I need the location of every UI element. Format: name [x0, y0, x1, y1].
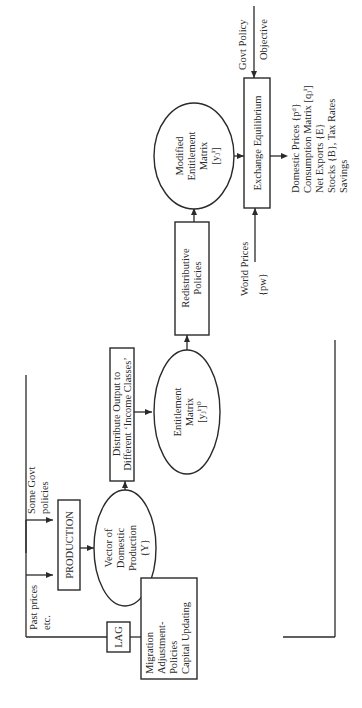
arrow-up-icon [252, 208, 258, 215]
arrow-right-icon [281, 153, 288, 159]
exchange-label: Exchange Equilibrium [252, 96, 263, 191]
svg-text:Consumption Matrix [qⱼⁱ]: Consumption Matrix [qⱼⁱ] [302, 85, 313, 193]
past-prices-label: Past prices etc. [28, 585, 52, 630]
govt-policy-label: Govt Policy Objective [237, 19, 269, 70]
svg-text:Modified: Modified [174, 136, 185, 176]
svg-text:etc.: etc. [41, 615, 52, 630]
flow-diagram: Past prices etc. Some Govt policies PROD… [0, 0, 362, 708]
some-govt-label: Some Govt policies [26, 466, 50, 514]
svg-text:Domestic Prices {pᵈ}: Domestic Prices {pᵈ} [290, 103, 301, 193]
svg-text:Policies: Policies [168, 641, 179, 674]
svg-text:Policies: Policies [192, 261, 203, 294]
production-label: PRODUCTION [64, 511, 75, 579]
svg-text:World Prices: World Prices [239, 242, 250, 296]
svg-text:Past prices: Past prices [28, 585, 39, 630]
svg-text:Vector of: Vector of [103, 528, 114, 567]
svg-text:[yⱼⁱ]: [yⱼⁱ] [210, 147, 221, 164]
lag-label: LAG [113, 626, 124, 648]
svg-text:Production: Production [127, 524, 138, 571]
svg-text:Savings: Savings [338, 160, 349, 193]
svg-text:Distribute Output to: Distribute Output to [111, 372, 122, 457]
distribute-label: Distribute Output to Different ‘Income C… [111, 357, 133, 471]
svg-text:Matrix: Matrix [198, 141, 209, 170]
arrow-up-icon [184, 335, 190, 342]
svg-text:Govt Policy: Govt Policy [237, 19, 248, 70]
svg-text:Entitlement: Entitlement [172, 387, 183, 436]
svg-text:Migration: Migration [144, 631, 155, 674]
svg-text:Adjustment-: Adjustment- [156, 621, 167, 674]
svg-text:{pw}: {pw} [257, 273, 268, 296]
arrow-right-icon [46, 517, 53, 523]
svg-text:policies: policies [39, 481, 50, 514]
svg-text:Entitlement: Entitlement [186, 131, 197, 180]
svg-text:Stocks {B}, Tax Rates: Stocks {B}, Tax Rates [326, 99, 337, 193]
world-prices-label: World Prices {pw} [239, 242, 268, 296]
svg-text:Some Govt: Some Govt [26, 466, 37, 514]
svg-text:Objective: Objective [258, 19, 269, 60]
arrow-right-icon [46, 572, 53, 578]
arrow-down-icon [251, 71, 257, 78]
svg-text:Redistributive: Redistributive [180, 248, 191, 308]
arrow-up-icon [122, 481, 128, 488]
arrow-right-icon [87, 545, 94, 551]
svg-text:[yⱼⁱ]⁰: [yⱼⁱ]⁰ [196, 401, 207, 422]
svg-text:Matrix: Matrix [184, 397, 195, 426]
svg-text:Domestic: Domestic [115, 528, 126, 569]
arrow-right-icon [237, 153, 244, 159]
arrow-right-icon [145, 409, 152, 415]
svg-text:{Y}: {Y} [139, 539, 150, 557]
outputs-label: Domestic Prices {pᵈ} Consumption Matrix … [290, 85, 349, 193]
svg-text:Different ‘Income Classes’: Different ‘Income Classes’ [122, 357, 133, 471]
svg-text:Net Exports {E}: Net Exports {E} [314, 123, 325, 193]
svg-text:Capital Updating: Capital Updating [180, 601, 191, 674]
